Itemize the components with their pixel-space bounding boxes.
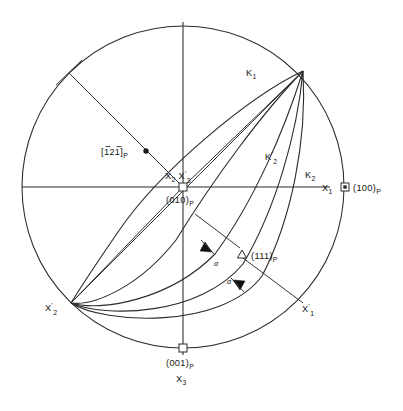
label-plane-010: (010)P xyxy=(166,195,194,207)
label-alpha-upper: α xyxy=(214,259,219,268)
stereographic-projection-figure: K1 K'2 K2 X1 (100)P X2 X'3 (010)P [121]P… xyxy=(0,0,403,411)
square-marker-001 xyxy=(179,344,187,352)
label-plane-100: (100)P xyxy=(353,183,381,195)
label-direction-121: [121]P xyxy=(101,147,128,159)
label-x1-prime: X'1 xyxy=(302,303,314,317)
guide-line-upper-left-diagonal xyxy=(69,73,183,187)
label-x2-prime: X'2 xyxy=(45,302,57,316)
label-plane-001: (001)P xyxy=(166,358,194,370)
label-k2-prime: K'2 xyxy=(265,151,277,165)
label-x3: X3 xyxy=(176,374,187,386)
square-marker-010 xyxy=(179,183,187,191)
label-plane-111: (111)P xyxy=(251,251,278,263)
label-alpha-lower: α xyxy=(227,277,232,286)
label-k1: K1 xyxy=(246,68,257,80)
tick-upper-left-boundary xyxy=(56,60,82,85)
dot-marker-121 xyxy=(143,148,148,153)
triangle-marker-111 xyxy=(237,250,246,258)
tick-lower-to-x1-prime xyxy=(243,258,303,303)
label-k2: K2 xyxy=(305,170,316,182)
label-x1: X1 xyxy=(322,183,333,195)
square-marker-100-core xyxy=(343,185,346,188)
tick-upper-alpha-trace xyxy=(195,214,240,248)
